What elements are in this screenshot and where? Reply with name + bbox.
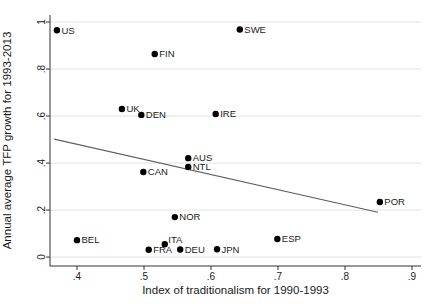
data-point-POR [377, 199, 383, 205]
y-tick-label-1: 1 [36, 19, 47, 25]
y-tick-label-.4: .4 [36, 158, 47, 167]
x-tick-label-.4: .4 [73, 271, 82, 282]
data-point-BEL [74, 237, 80, 243]
point-label-ITA: ITA [168, 234, 183, 245]
x-axis-title: Index of traditionalism for 1990-1993 [142, 284, 329, 296]
data-point-US [54, 27, 60, 33]
point-label-DEN: DEN [146, 109, 166, 120]
point-label-NOR: NOR [179, 211, 200, 222]
y-tick-label-.6: .6 [36, 111, 47, 120]
point-label-POR: POR [384, 196, 405, 207]
point-label-US: US [61, 25, 74, 36]
x-tick-label-.8: .8 [341, 271, 350, 282]
y-tick-label-.8: .8 [36, 64, 47, 73]
scatter-plot-canvas: 0.2.4.6.81.4.5.6.7.8.9USSWEFINUKDENIREAU… [0, 0, 429, 307]
y-tick-label-0: 0 [36, 254, 47, 260]
data-point-NOR [172, 214, 178, 220]
x-tick-label-.6: .6 [207, 271, 216, 282]
point-label-CAN: CAN [148, 166, 168, 177]
x-tick-label-.5: .5 [140, 271, 149, 282]
x-tick-label-.7: .7 [274, 271, 283, 282]
data-point-ESP [274, 236, 280, 242]
data-point-NTL [185, 164, 191, 170]
data-point-FRA [145, 247, 151, 253]
point-label-UK: UK [126, 103, 140, 114]
x-tick-label-.9: .9 [408, 271, 417, 282]
point-label-IRE: IRE [220, 108, 236, 119]
point-label-JPN: JPN [222, 244, 240, 255]
data-point-ITA [162, 241, 168, 247]
data-point-IRE [213, 111, 219, 117]
y-axis-title: Annual average TFP growth for 1993-2013 [1, 32, 13, 250]
data-point-JPN [214, 246, 220, 252]
point-label-DEU: DEU [185, 244, 205, 255]
y-tick-label-.2: .2 [36, 205, 47, 214]
tfp-traditionalism-scatter-figure: 0.2.4.6.81.4.5.6.7.8.9USSWEFINUKDENIREAU… [0, 0, 429, 307]
data-point-FIN [152, 51, 158, 57]
data-point-DEU [177, 246, 183, 252]
data-point-SWE [237, 26, 243, 32]
trend-line [54, 139, 378, 212]
data-point-AUS [185, 155, 191, 161]
data-point-UK [119, 106, 125, 112]
point-label-FIN: FIN [159, 48, 174, 59]
point-label-NTL: NTL [193, 161, 211, 172]
data-point-CAN [140, 169, 146, 175]
point-label-BEL: BEL [82, 234, 100, 245]
point-label-ESP: ESP [282, 233, 301, 244]
data-point-DEN [138, 112, 144, 118]
point-label-SWE: SWE [244, 24, 266, 35]
